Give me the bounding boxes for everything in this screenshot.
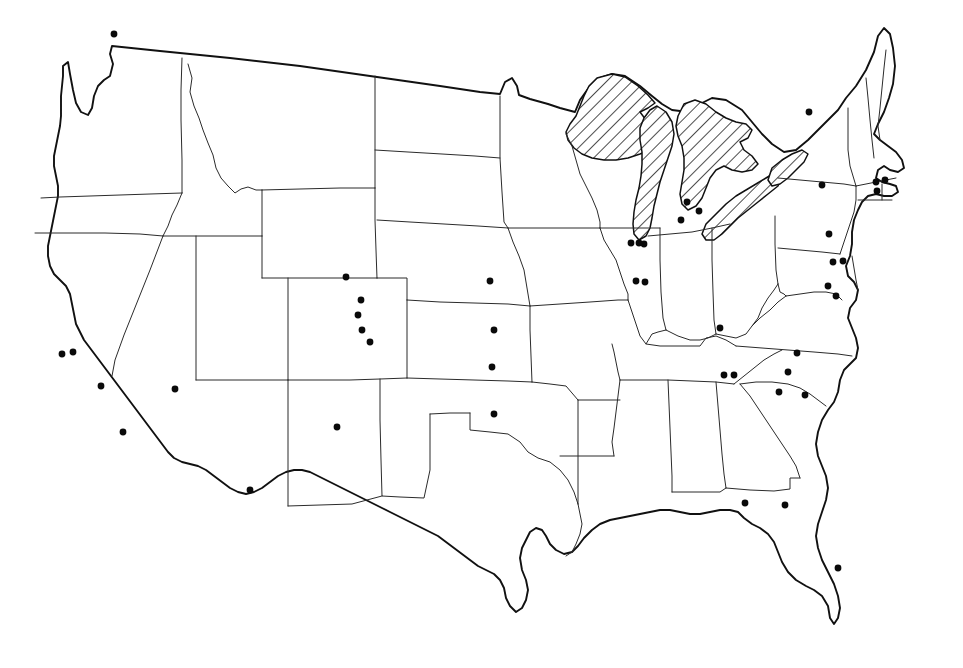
occurrence-dot — [633, 278, 640, 285]
occurrence-dot — [696, 208, 703, 215]
occurrence-dot — [678, 217, 685, 224]
occurrence-dot — [840, 258, 847, 265]
occurrence-dot — [59, 351, 66, 358]
us-dot-distribution-map — [0, 0, 963, 668]
occurrence-dot — [882, 177, 889, 184]
occurrence-dot — [491, 327, 498, 334]
occurrence-dot — [172, 386, 179, 393]
occurrence-dot — [742, 500, 749, 507]
occurrence-dot — [833, 293, 840, 300]
occurrence-dot — [491, 411, 498, 418]
occurrence-dot — [717, 325, 724, 332]
occurrence-dot — [835, 565, 842, 572]
caption-area — [0, 634, 963, 668]
occurrence-dot — [641, 241, 648, 248]
map-canvas — [0, 0, 963, 668]
occurrence-dot — [785, 369, 792, 376]
occurrence-dot — [247, 487, 254, 494]
occurrence-dot — [489, 364, 496, 371]
occurrence-dot — [826, 231, 833, 238]
occurrence-dot — [642, 279, 649, 286]
occurrence-dot — [343, 274, 350, 281]
occurrence-dot — [776, 389, 783, 396]
occurrence-dot — [802, 392, 809, 399]
occurrence-dot — [806, 109, 813, 116]
occurrence-dot — [731, 372, 738, 379]
occurrence-dot — [111, 31, 118, 38]
occurrence-dot — [819, 182, 826, 189]
occurrence-dot — [721, 372, 728, 379]
occurrence-dot — [794, 350, 801, 357]
occurrence-dot — [367, 339, 374, 346]
occurrence-dot — [782, 502, 789, 509]
occurrence-dot — [358, 297, 365, 304]
occurrence-dot — [487, 278, 494, 285]
occurrence-dot — [359, 327, 366, 334]
occurrence-dot — [355, 312, 362, 319]
occurrence-dot — [120, 429, 127, 436]
occurrence-dot — [830, 259, 837, 266]
occurrence-dot — [874, 188, 881, 195]
occurrence-dot — [684, 199, 691, 206]
occurrence-dot — [334, 424, 341, 431]
occurrence-dot — [825, 283, 832, 290]
occurrence-dot — [873, 179, 880, 186]
occurrence-dot — [628, 240, 635, 247]
occurrence-dot — [98, 383, 105, 390]
occurrence-dot — [70, 349, 77, 356]
